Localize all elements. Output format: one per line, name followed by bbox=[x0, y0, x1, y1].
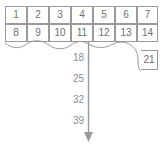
arrow-head-icon bbox=[84, 132, 93, 142]
grid-cell[interactable]: 14 bbox=[137, 24, 158, 42]
grid-cell[interactable]: 1 bbox=[5, 6, 27, 24]
grid-cell[interactable]: 4 bbox=[71, 6, 93, 24]
grid-cell[interactable]: 2 bbox=[27, 6, 49, 24]
grid-cell[interactable]: 13 bbox=[115, 24, 137, 42]
grid-cell[interactable]: 11 bbox=[71, 24, 93, 42]
grid-cell[interactable]: 12 bbox=[93, 24, 115, 42]
grid-cell-detached[interactable]: 21 bbox=[141, 50, 158, 70]
grid-cell[interactable]: 3 bbox=[49, 6, 71, 24]
torn-edge-right bbox=[89, 42, 142, 71]
grid-cell[interactable]: 7 bbox=[137, 6, 158, 24]
grid-cell[interactable]: 10 bbox=[49, 24, 71, 42]
grid-cell[interactable]: 9 bbox=[27, 24, 49, 42]
grid-cell[interactable]: 8 bbox=[5, 24, 27, 42]
number-grid-sequence-diagram: 1 2 3 4 5 6 7 8 9 10 11 12 13 14 21 18 2… bbox=[0, 0, 162, 149]
grid-cell[interactable]: 5 bbox=[93, 6, 115, 24]
grid-cell[interactable]: 6 bbox=[115, 6, 137, 24]
